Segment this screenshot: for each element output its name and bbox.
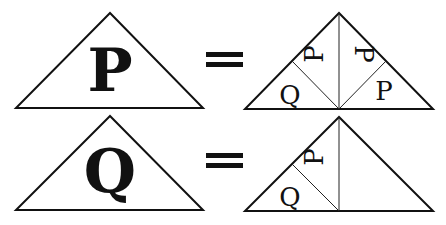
row2-equals-sign bbox=[206, 153, 243, 168]
piece-letter-p-rotated-left: P bbox=[299, 148, 329, 166]
big-letter-q: Q bbox=[84, 136, 136, 206]
row2-right-triangle: Q P bbox=[245, 117, 433, 212]
piece-letter-p: P bbox=[375, 76, 393, 106]
row2-left-triangle: Q bbox=[16, 116, 203, 210]
triangle-decomposition-diagram: P Q P P P Q Q P bbox=[0, 0, 446, 225]
piece-letter-q: Q bbox=[279, 182, 300, 212]
piece-letter-p-rotated-right: P bbox=[349, 45, 379, 63]
row1-left-triangle: P bbox=[16, 13, 203, 108]
piece-letter-q: Q bbox=[279, 80, 300, 110]
big-letter-p: P bbox=[87, 35, 132, 105]
piece-letter-p-rotated-left: P bbox=[299, 45, 329, 63]
row1-right-triangle: Q P P P bbox=[245, 13, 433, 110]
row1-equals-sign bbox=[206, 52, 243, 67]
